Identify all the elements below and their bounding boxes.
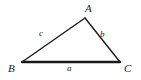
side-label-b: b	[100, 30, 105, 39]
vertex-label-a: A	[85, 3, 92, 14]
vertex-label-c: C	[124, 63, 131, 74]
triangle-figure: A B C a b c	[0, 0, 141, 80]
side-label-c: c	[39, 29, 43, 38]
side-c-line	[22, 18, 85, 62]
side-b-line	[85, 18, 120, 62]
vertex-label-b: B	[8, 63, 15, 74]
side-label-a: a	[67, 64, 72, 73]
